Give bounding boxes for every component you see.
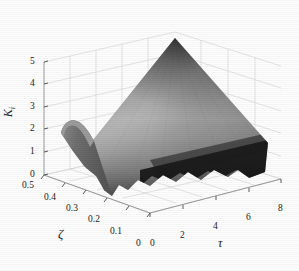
z-tick-label-3: 3 — [30, 101, 35, 111]
tau-tick-label-2: 2 — [180, 230, 185, 240]
zeta-axis-label: ζ — [58, 226, 63, 242]
zeta-tick-label-0p5: 0.5 — [22, 180, 34, 190]
zeta-tick-label-0: 0 — [136, 238, 141, 248]
z-tick-label-5: 5 — [30, 56, 35, 66]
z-axis-ticks — [44, 61, 48, 175]
z-axis-label-subscript: i — [8, 107, 17, 109]
surface-plot-canvas — [0, 0, 299, 271]
z-axis-label-text: K — [1, 109, 15, 117]
z-tick-label-2: 2 — [30, 123, 35, 133]
tau-axis-ticks — [150, 179, 281, 217]
zeta-tick-label-0p1: 0.1 — [110, 226, 122, 236]
figure-3d-surface-plot: 5 4 3 2 1 0 0.5 0.4 0.3 0.2 0.1 0 0 2 4 … — [0, 0, 299, 271]
tau-tick-label-8: 8 — [278, 203, 283, 213]
zeta-tick-label-0p2: 0.2 — [88, 214, 100, 224]
zeta-tick-label-0p4: 0.4 — [44, 192, 56, 202]
z-axis-label: Ki — [1, 107, 17, 117]
zeta-tick-label-0p3: 0.3 — [66, 203, 78, 213]
z-tick-label-4: 4 — [30, 78, 35, 88]
tau-axis-label: τ — [218, 236, 222, 251]
tau-tick-label-6: 6 — [246, 212, 251, 222]
tau-tick-label-0: 0 — [150, 238, 155, 248]
z-tick-label-1: 1 — [30, 146, 35, 156]
tau-tick-label-4: 4 — [213, 221, 218, 231]
z-tick-label-0: 0 — [30, 169, 35, 179]
